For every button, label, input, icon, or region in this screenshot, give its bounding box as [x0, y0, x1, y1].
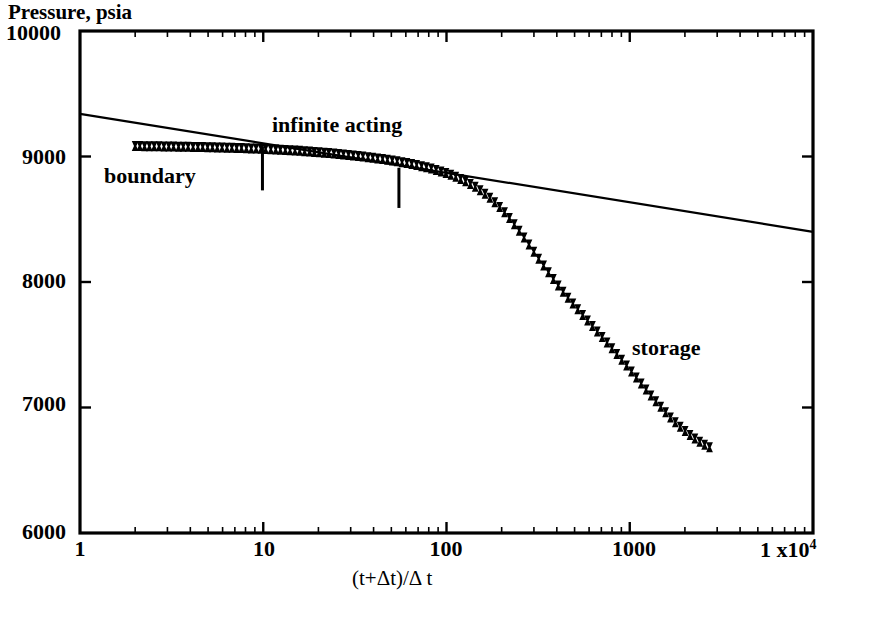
axis-ticks — [80, 31, 813, 533]
pressure-buildup-chart: Pressure, psia 10000 9000 8000 7000 6000… — [0, 0, 871, 630]
buildup-pressure-data-series — [132, 141, 713, 452]
axis-frame — [80, 31, 813, 533]
plot-canvas — [0, 0, 871, 630]
